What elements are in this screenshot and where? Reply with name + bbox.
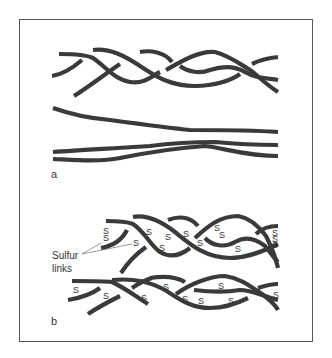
rubber-vulcanization-diagram: a S S S S S S S S S S S S S S [0,0,332,358]
sulfur-symbol: S [103,233,109,243]
sulfur-symbol: S [197,238,203,248]
sulfur-symbol: S [159,243,165,253]
sulfur-links-annotation: Sulfur links [52,243,132,274]
sulfur-symbol: S [146,227,152,237]
panel-a-tangled-strands [52,50,278,96]
sulfur-symbol: S [163,282,169,292]
annotation-line2: links [52,263,72,274]
annotation-line1: Sulfur [52,250,79,261]
sulfur-symbol: S [198,296,204,306]
sulfur-symbol: S [133,238,139,248]
panel-a-label: a [51,168,58,180]
sulfur-symbol: S [272,240,278,250]
sulfur-symbol: S [183,229,189,239]
sulfur-symbol: S [218,281,224,291]
panel-b-label: b [51,315,57,327]
sulfur-symbol: S [165,232,171,242]
panel-a-stretched-strands [53,108,278,160]
sulfur-symbol: S [273,290,279,300]
sulfur-symbol: S [103,291,109,301]
sulfur-symbol: S [228,296,234,306]
sulfur-symbol: S [73,285,79,295]
panel-b-upper-network [101,216,278,273]
sulfur-symbol: S [182,294,188,304]
sulfur-symbol: S [141,293,147,303]
panel-b-lower-network [68,276,278,314]
sulfur-symbol: S [235,244,241,254]
sulfur-symbol: S [219,230,225,240]
